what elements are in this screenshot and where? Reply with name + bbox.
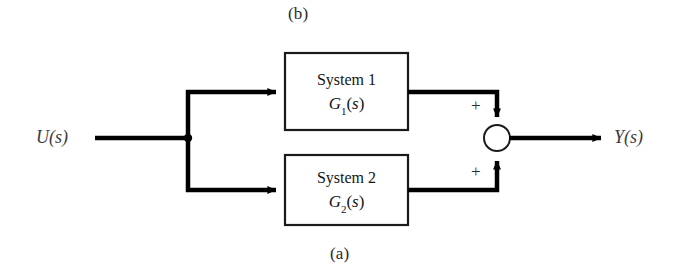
block-2-tf-subscript: 2 — [341, 203, 347, 215]
block-1-transfer-function: G1(s) — [285, 95, 408, 116]
summing-junction-sign-top: + — [471, 96, 481, 116]
input-signal-label: U(s) — [36, 127, 68, 148]
output-signal-label: Y(s) — [614, 127, 643, 148]
block-1-tf-subscript: 1 — [341, 105, 347, 117]
block-1-name: System 1 — [285, 72, 408, 89]
block-2-name: System 2 — [285, 170, 408, 187]
block-2-rect[interactable] — [285, 155, 408, 225]
block-2-tf-base: G — [329, 192, 341, 211]
summing-junction-circle[interactable] — [484, 125, 510, 151]
block-2-tf-arg: (s) — [346, 192, 364, 211]
block-1-tf-base: G — [329, 94, 341, 113]
figure-caption-top: (b) — [288, 4, 308, 24]
branch-point-dot — [184, 134, 192, 142]
block-2-transfer-function: G2(s) — [285, 193, 408, 214]
block-diagram-canvas — [0, 0, 676, 275]
figure-caption-bottom: (a) — [330, 244, 349, 264]
wire-block2-to-sum — [408, 161, 497, 190]
block-1-rect[interactable] — [285, 53, 408, 130]
block-1-tf-arg: (s) — [346, 94, 364, 113]
summing-junction-sign-bottom: + — [471, 162, 481, 182]
wire-block1-to-sum — [408, 92, 497, 117]
